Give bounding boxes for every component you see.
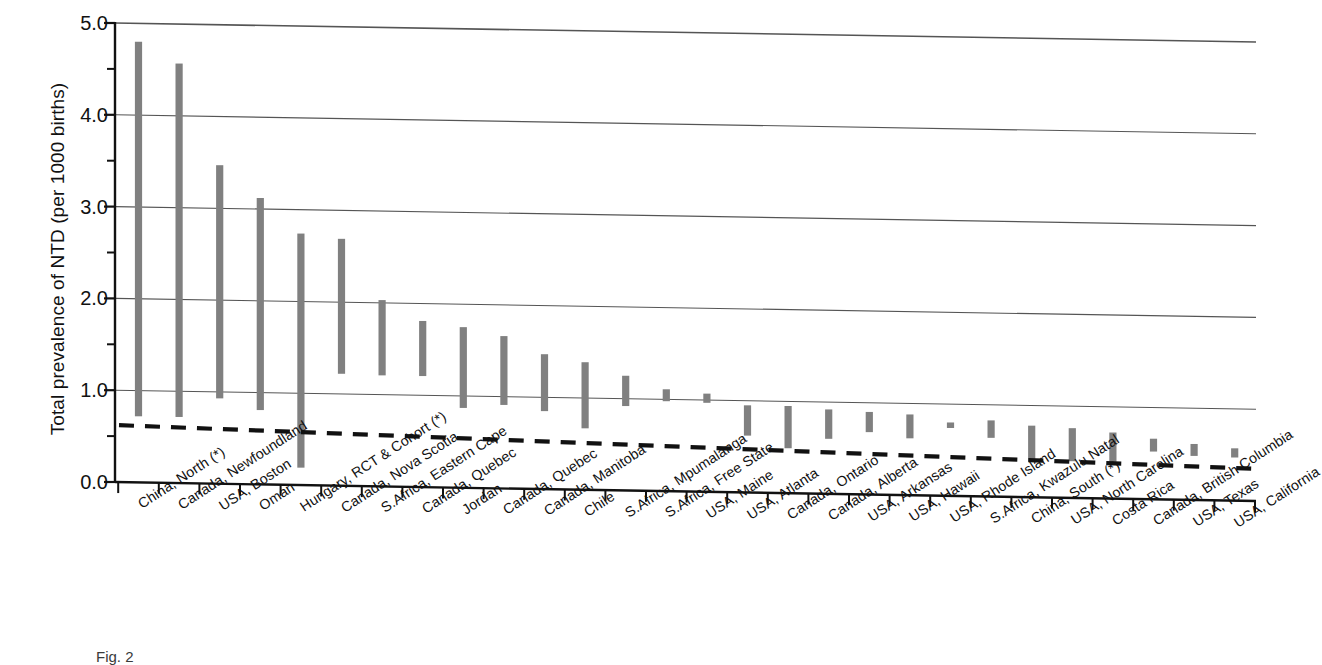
range-bar [257,198,264,410]
range-bar [379,300,386,375]
range-bar [825,409,832,438]
range-bar [419,321,426,376]
range-bars-group [135,42,1238,468]
range-bar [1150,439,1157,452]
range-bar [135,42,142,417]
range-bar [582,362,589,428]
range-bar [1231,448,1238,457]
y-axis-ticks [104,23,115,482]
range-bar [338,239,345,374]
range-bar [500,336,507,405]
range-bar [216,165,223,398]
range-bar [622,376,629,406]
range-bar [460,327,467,408]
range-bar [1191,444,1198,456]
range-bar [744,405,751,435]
range-bar [541,354,548,411]
figure-caption: Fig. 2 [96,648,134,665]
range-bar [947,422,954,428]
range-bar [988,420,995,437]
range-bar [663,389,670,401]
range-bar [176,64,183,417]
range-bar [785,406,792,448]
range-bar [906,414,913,438]
range-bar [703,394,710,403]
range-bar [866,412,873,432]
grid-lines [115,23,1256,409]
